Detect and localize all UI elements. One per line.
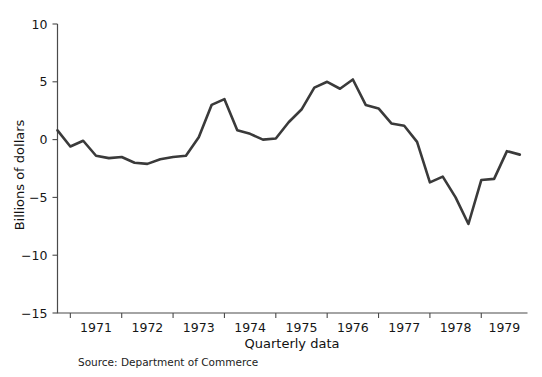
x-tick-label-1974: 1974	[234, 320, 266, 335]
y-tick-label-5: 5	[40, 74, 48, 89]
chart-figure: 1050−5−10−15 197119721973197419751976197…	[0, 0, 542, 377]
y-axis-ticks	[53, 24, 58, 313]
x-axis-tick-labels: 197119721973197419751976197719781979	[80, 320, 520, 335]
x-tick-label-1972: 1972	[131, 320, 163, 335]
y-axis-title: Billions of dollars	[12, 119, 27, 230]
source-note: Source: Department of Commerce	[78, 356, 258, 368]
y-tick-label-10: 10	[32, 17, 48, 32]
y-tick-label--10: −10	[21, 248, 47, 263]
x-tick-label-1971: 1971	[80, 320, 112, 335]
y-tick-label-0: 0	[40, 132, 48, 147]
x-axis-ticks	[70, 313, 481, 318]
chart-axes	[53, 24, 528, 318]
line-chart: 1050−5−10−15 197119721973197419751976197…	[0, 0, 542, 377]
axis-lines	[58, 24, 528, 313]
x-tick-label-1976: 1976	[337, 320, 369, 335]
x-tick-label-1979: 1979	[488, 320, 520, 335]
chart-series-group	[58, 79, 520, 224]
y-tick-label--5: −5	[29, 190, 47, 205]
x-axis-title: Quarterly data	[245, 336, 340, 351]
x-tick-label-1978: 1978	[440, 320, 472, 335]
y-tick-label--15: −15	[21, 306, 47, 321]
x-tick-label-1973: 1973	[183, 320, 215, 335]
x-tick-label-1977: 1977	[388, 320, 420, 335]
data-line-series-0	[58, 79, 520, 224]
x-tick-label-1975: 1975	[286, 320, 318, 335]
